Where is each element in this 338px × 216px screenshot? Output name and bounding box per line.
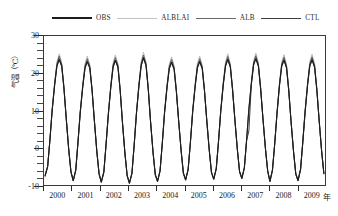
series-line-alblai [45,52,324,183]
y-major-tick [34,148,43,149]
legend-entry-alb: ALB [196,14,262,22]
temperature-time-series-figure: OBSALBLAIALBCTL 气温（℃） 3020100-1020002001… [0,0,338,216]
legend-label-alb: ALB [240,14,255,22]
series-line-alb [45,55,324,184]
legend-swatch-alblai [117,18,157,19]
legend-label-alblai: ALBLAI [161,14,189,22]
chart-legend: OBSALBLAIALBCTL [52,11,326,25]
legend-entry-alblai: ALBLAI [117,14,195,22]
x-axis-unit-label: 年 [323,191,331,202]
legend-swatch-alb [196,18,236,19]
series-line-ctl [45,58,324,182]
series-lines [44,36,325,185]
legend-entry-obs: OBS [52,14,117,22]
y-major-tick [34,186,43,187]
y-major-tick [34,35,43,36]
legend-entry-ctl: CTL [261,14,326,22]
legend-swatch-ctl [261,18,301,19]
series-line-obs [45,58,324,184]
y-major-tick [34,73,43,74]
y-major-tick [34,111,43,112]
legend-label-obs: OBS [96,14,111,22]
legend-label-ctl: CTL [305,14,319,22]
plot-area [43,35,326,186]
legend-swatch-obs [52,17,92,19]
